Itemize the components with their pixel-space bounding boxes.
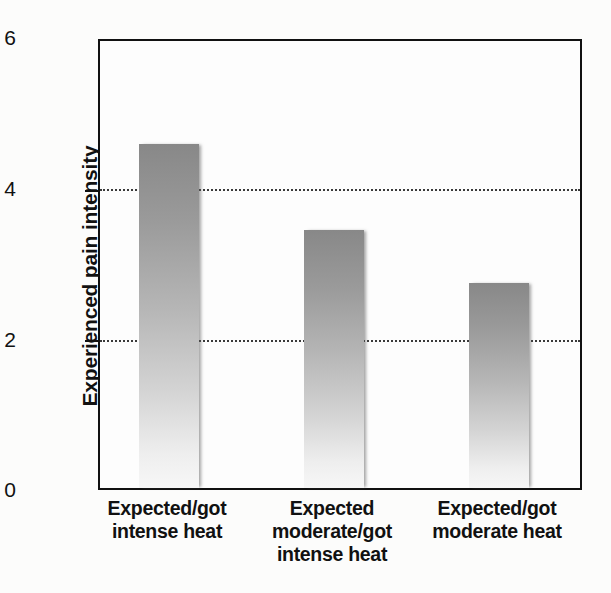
y-tick-label-6: 6: [0, 27, 16, 48]
x-label-line-2: moderate/got: [244, 520, 420, 543]
x-axis-labels: Expected/got intense heat Expected moder…: [98, 497, 582, 587]
plot-area: [98, 39, 582, 490]
x-label-line-2: moderate heat: [409, 520, 585, 543]
x-label-line-1: Expected: [244, 497, 420, 520]
bar-chart-figure: Experienced pain intensity 6 4 2 0 Expec…: [0, 0, 611, 593]
y-tick-label-4: 4: [0, 178, 16, 199]
x-label-expected-got-moderate-heat: Expected/got moderate heat: [409, 497, 585, 543]
x-label-line-1: Expected/got: [409, 497, 585, 520]
x-label-expected-moderate-got-intense-heat: Expected moderate/got intense heat: [244, 497, 420, 566]
x-label-expected-got-intense-heat: Expected/got intense heat: [79, 497, 255, 543]
y-tick-mark-2: [85, 340, 98, 342]
bar-expected-got-moderate-heat[interactable]: [469, 283, 529, 488]
y-tick-mark-4: [85, 190, 98, 192]
y-tick-label-2: 2: [0, 329, 16, 350]
x-label-line-1: Expected/got: [79, 497, 255, 520]
x-label-line-3: intense heat: [244, 543, 420, 566]
x-label-line-2: intense heat: [79, 520, 255, 543]
y-tick-label-0: 0: [0, 479, 16, 500]
bar-expected-moderate-got-intense-heat[interactable]: [304, 230, 364, 488]
bar-expected-got-intense-heat[interactable]: [139, 144, 199, 488]
